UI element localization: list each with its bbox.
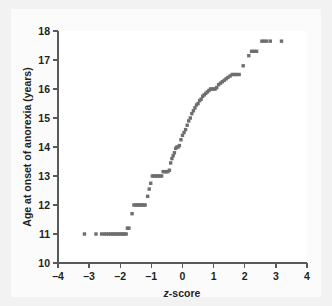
y-tick-label: 11 bbox=[39, 228, 50, 240]
data-point bbox=[179, 138, 182, 141]
data-point bbox=[255, 50, 258, 53]
data-point bbox=[170, 157, 173, 160]
data-point bbox=[146, 195, 149, 198]
x-tick-label: 2 bbox=[242, 270, 248, 282]
data-point bbox=[190, 112, 193, 115]
data-point bbox=[182, 131, 185, 134]
y-axis-ticks: 101112131415161718 bbox=[38, 25, 58, 269]
data-point bbox=[149, 182, 152, 185]
data-point bbox=[199, 97, 202, 100]
data-point bbox=[83, 232, 86, 235]
y-tick-label: 12 bbox=[38, 199, 50, 211]
data-point bbox=[181, 134, 184, 137]
data-point bbox=[247, 54, 250, 57]
data-point bbox=[185, 124, 188, 127]
data-point bbox=[265, 39, 268, 42]
data-point bbox=[143, 203, 146, 206]
data-point bbox=[187, 119, 190, 122]
data-point bbox=[215, 86, 218, 89]
y-tick-label: 18 bbox=[38, 25, 50, 37]
data-point bbox=[124, 232, 127, 235]
data-point bbox=[184, 128, 187, 131]
x-tick-label: –3 bbox=[83, 270, 95, 282]
x-tick-label: 1 bbox=[211, 270, 217, 282]
data-point bbox=[171, 154, 174, 157]
data-point bbox=[193, 106, 196, 109]
data-point bbox=[280, 39, 283, 42]
data-point bbox=[196, 102, 199, 105]
data-point bbox=[169, 161, 172, 164]
figure-container: –4–3–2–101234 101112131415161718 z-score… bbox=[0, 0, 332, 306]
y-tick-label: 13 bbox=[38, 170, 50, 182]
scatter-plot: –4–3–2–101234 101112131415161718 z-score… bbox=[0, 0, 332, 306]
plot-area-background bbox=[58, 31, 307, 263]
y-tick-label: 15 bbox=[38, 112, 50, 124]
data-point bbox=[168, 169, 171, 172]
data-point bbox=[192, 109, 195, 112]
x-axis-title: z-score bbox=[163, 287, 201, 299]
data-point bbox=[148, 187, 151, 190]
x-tick-label: 0 bbox=[180, 270, 186, 282]
y-tick-label: 10 bbox=[38, 257, 50, 269]
x-axis-ticks: –4–3–2–101234 bbox=[52, 263, 310, 282]
data-point bbox=[189, 116, 192, 119]
x-tick-label: –1 bbox=[146, 270, 158, 282]
x-tick-label: –2 bbox=[114, 270, 126, 282]
data-point bbox=[269, 39, 272, 42]
data-point bbox=[94, 232, 97, 235]
y-axis-title: Age at onset of anorexia (years) bbox=[21, 67, 33, 226]
data-point bbox=[241, 64, 244, 67]
x-tick-label: 3 bbox=[273, 270, 279, 282]
x-tick-label: 4 bbox=[304, 270, 310, 282]
y-tick-label: 14 bbox=[38, 141, 50, 153]
data-point bbox=[178, 144, 181, 147]
data-point bbox=[173, 151, 176, 154]
x-tick-label: –4 bbox=[52, 270, 64, 282]
data-point bbox=[130, 212, 133, 215]
data-point bbox=[237, 73, 240, 76]
data-point bbox=[127, 227, 130, 230]
y-tick-label: 17 bbox=[38, 54, 50, 66]
y-tick-label: 16 bbox=[38, 83, 50, 95]
x-axis-title-rest: -score bbox=[169, 287, 201, 299]
data-point bbox=[160, 174, 163, 177]
